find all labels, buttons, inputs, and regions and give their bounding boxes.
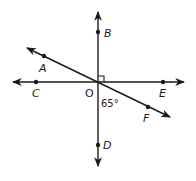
- label-F: F: [143, 112, 150, 125]
- label-A: A: [38, 62, 47, 75]
- right-angle-mark: [98, 76, 104, 82]
- point-D: [96, 143, 100, 147]
- point-C: [34, 80, 38, 84]
- label-C: C: [32, 87, 40, 100]
- point-F: [146, 105, 150, 109]
- point-B: [96, 30, 100, 34]
- label-B: B: [104, 27, 112, 40]
- label-E: E: [159, 87, 166, 100]
- geometry-diagram: B A C O 65° E F D: [0, 0, 196, 181]
- label-D: D: [103, 139, 111, 152]
- label-O: O: [85, 87, 94, 100]
- point-E: [161, 80, 165, 84]
- angle-label-DOF: 65°: [101, 98, 119, 109]
- point-A: [42, 54, 46, 58]
